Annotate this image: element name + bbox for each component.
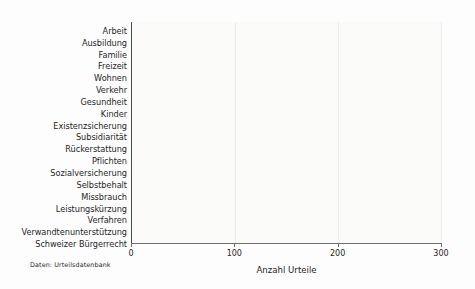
x-tick-mark-0: [131, 243, 132, 247]
category-label-2: Ausbildung: [1, 38, 127, 48]
x-axis-title: Anzahl Urteile: [131, 265, 442, 275]
x-tick-label-300: 300: [433, 249, 448, 258]
bar-chart-figure: ArbeitAusbildungFamilieFreizeitWohnenVer…: [0, 0, 475, 289]
category-label-16: Leistungskürzung: [1, 204, 127, 214]
bar-5: [131, 74, 226, 82]
bar-4: [131, 63, 236, 71]
bar-10: [131, 134, 312, 142]
category-label-7: Gesundheit: [1, 97, 127, 107]
bar-15: [131, 193, 165, 201]
bar-18: [131, 228, 158, 236]
bar-17: [131, 217, 163, 225]
bar-19: [131, 240, 138, 248]
source-note: Daten: Urteilsdatenbank: [30, 261, 111, 269]
category-label-3: Familie: [1, 50, 127, 60]
category-label-4: Freizeit: [1, 61, 127, 71]
bar-7: [131, 98, 171, 106]
bar-14: [131, 181, 181, 189]
category-label-5: Wohnen: [1, 73, 127, 83]
category-label-15: Missbrauch: [1, 192, 127, 202]
bar-1: [131, 27, 373, 35]
category-label-13: Sozialversicherung: [1, 168, 127, 178]
category-label-1: Arbeit: [1, 26, 127, 36]
category-label-14: Selbstbehalt: [1, 180, 127, 190]
category-label-6: Verkehr: [1, 85, 127, 95]
bar-3: [131, 51, 235, 59]
x-axis-line: [131, 243, 442, 244]
category-label-10: Subsidiarität: [1, 132, 127, 142]
bar-16: [131, 205, 163, 213]
x-tick-mark-100: [234, 243, 235, 247]
x-tick-mark-200: [338, 243, 339, 247]
x-tick-label-100: 100: [227, 249, 242, 258]
bar-2: [131, 39, 274, 47]
x-tick-label-0: 0: [128, 249, 133, 258]
y-axis-line: [131, 22, 132, 244]
category-label-18: Verwandtenunterstützung: [1, 227, 127, 237]
vertical-guide-200: [338, 22, 339, 243]
category-label-17: Verfahren: [1, 215, 127, 225]
x-tick-label-200: 200: [330, 249, 345, 258]
category-label-11: Rückerstattung: [1, 144, 127, 154]
category-label-12: Pflichten: [1, 156, 127, 166]
bar-11: [131, 146, 311, 154]
vertical-guide-300: [441, 22, 442, 243]
bar-12: [131, 157, 224, 165]
bar-9: [131, 122, 428, 130]
category-label-8: Kinder: [1, 109, 127, 119]
bar-13: [131, 169, 182, 177]
category-label-19: Schweizer Bürgerrecht: [1, 239, 127, 249]
category-axis-labels: ArbeitAusbildungFamilieFreizeitWohnenVer…: [0, 0, 127, 289]
x-tick-mark-300: [441, 243, 442, 247]
category-label-9: Existenzsicherung: [1, 121, 127, 131]
bar-6: [131, 86, 184, 94]
